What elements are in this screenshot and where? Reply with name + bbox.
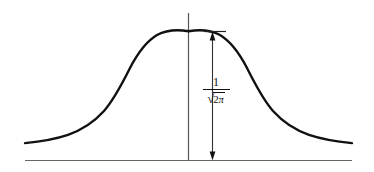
peak-height-annotation: 1 √2π	[199, 76, 233, 107]
pi-symbol: π	[219, 94, 224, 105]
measurement-arrow-down-icon	[210, 152, 216, 161]
figure-canvas	[0, 0, 374, 172]
normal-distribution-figure: 1 √2π	[0, 0, 374, 172]
annotation-denominator: √2π	[199, 90, 233, 107]
annotation-numerator: 1	[199, 76, 233, 89]
annotation-radicand: 2π	[213, 92, 225, 106]
radical-sign-icon: √	[207, 91, 214, 106]
